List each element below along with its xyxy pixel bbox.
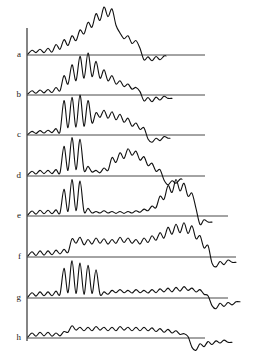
- series-label-g: g: [7, 293, 21, 302]
- spectrum-curve-g: [28, 261, 240, 309]
- spectrum-trace-f: [27, 223, 236, 267]
- series-label-a: a: [7, 50, 21, 59]
- series-label-d: d: [7, 171, 21, 180]
- spectrum-trace-e: [27, 180, 228, 225]
- series-label-c: c: [7, 130, 21, 139]
- spectrum-curve-a: [28, 7, 166, 61]
- spectrum-trace-b: [27, 53, 205, 102]
- series-label-f: f: [7, 252, 21, 261]
- spectra-figure: abcdefgh: [0, 0, 272, 359]
- spectrum-trace-h: [27, 326, 232, 351]
- spectrum-trace-d: [27, 138, 205, 185]
- spectrum-trace-a: [27, 7, 205, 61]
- spectra-plot: [0, 0, 272, 359]
- spectrum-curve-d: [28, 138, 182, 185]
- series-label-b: b: [7, 90, 21, 99]
- spectrum-curve-f: [28, 223, 236, 267]
- series-label-h: h: [7, 333, 21, 342]
- spectrum-curve-e: [28, 180, 212, 225]
- spectrum-trace-g: [27, 261, 240, 309]
- spectrum-trace-c: [27, 95, 205, 142]
- series-label-e: e: [7, 211, 21, 220]
